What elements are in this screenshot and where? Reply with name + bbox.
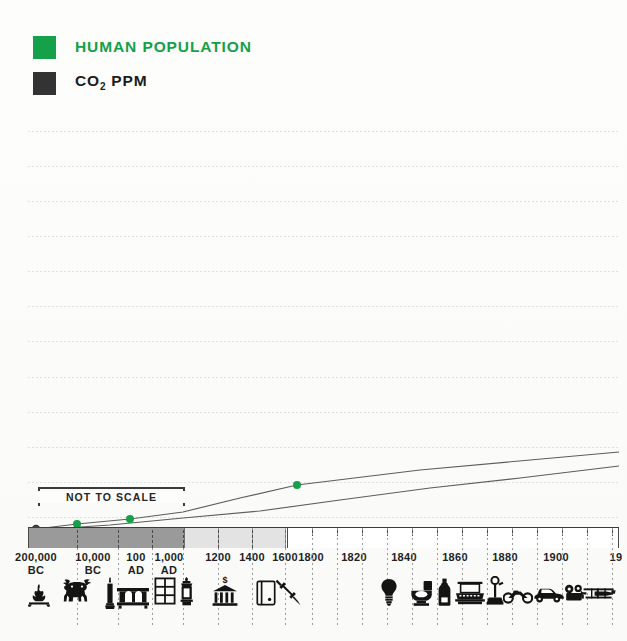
leader-line bbox=[312, 528, 313, 628]
automobile-icon bbox=[531, 583, 565, 603]
leader-line bbox=[118, 528, 119, 628]
bracket-line bbox=[38, 487, 185, 489]
timeline-band-medieval bbox=[184, 527, 286, 548]
not-to-scale-bracket: NOT TO SCALE bbox=[38, 487, 185, 508]
leader-line bbox=[562, 528, 563, 628]
legend-label-co2-main: CO bbox=[75, 72, 100, 89]
leader-line bbox=[337, 528, 338, 628]
lantern-icon bbox=[178, 577, 195, 606]
legend-item-human-population: HUMAN POPULATION bbox=[33, 33, 252, 61]
toilet-icon bbox=[410, 580, 434, 606]
leader-line bbox=[612, 528, 613, 628]
ledger-icon bbox=[256, 580, 276, 606]
legend-swatch-human-population bbox=[33, 36, 56, 59]
axis-baseline bbox=[28, 527, 619, 528]
ox-icon bbox=[60, 578, 94, 606]
legend-label-human-population: HUMAN POPULATION bbox=[75, 39, 252, 55]
gridline bbox=[28, 447, 619, 448]
biplane-icon bbox=[580, 584, 618, 604]
legend-label-co2-tail: PPM bbox=[106, 72, 148, 89]
axis-tick-label: 19 bbox=[584, 551, 627, 564]
leader-line bbox=[362, 528, 363, 628]
motorcycle-icon bbox=[503, 586, 533, 604]
gridline bbox=[28, 201, 619, 202]
legend-swatch-co2-ppm bbox=[33, 72, 56, 95]
not-to-scale-label: NOT TO SCALE bbox=[38, 491, 185, 503]
gridline bbox=[28, 166, 619, 167]
gridline bbox=[28, 131, 619, 132]
leader-line bbox=[587, 528, 588, 628]
leader-line bbox=[252, 528, 253, 628]
typewriter-icon bbox=[455, 581, 485, 605]
bank-icon: $ bbox=[212, 576, 238, 608]
legend-label-co2-ppm: CO2 PPM bbox=[75, 73, 148, 92]
axis-tick-label: 200,000BC bbox=[4, 551, 68, 576]
gridline bbox=[28, 482, 619, 483]
gridline bbox=[28, 412, 619, 413]
axis-tick-label: 1900 bbox=[524, 551, 588, 564]
syringe-icon bbox=[274, 578, 302, 606]
telephone-icon bbox=[486, 576, 504, 606]
gridline bbox=[28, 271, 619, 272]
gridline bbox=[28, 341, 619, 342]
furnace-icon bbox=[116, 585, 150, 609]
legend-item-co2-ppm: CO2 PPM bbox=[33, 69, 252, 97]
timeline-band-prehistoric bbox=[28, 527, 184, 548]
gridline bbox=[28, 236, 619, 237]
gridline bbox=[28, 306, 619, 307]
gridline bbox=[28, 517, 619, 518]
svg-text:$: $ bbox=[222, 576, 227, 585]
leader-line bbox=[537, 528, 538, 628]
legend: HUMAN POPULATION CO2 PPM bbox=[33, 33, 252, 105]
lightbulb-icon bbox=[380, 578, 398, 606]
window-grid-icon bbox=[154, 577, 176, 605]
candle-icon bbox=[104, 577, 116, 611]
campfire-icon bbox=[26, 582, 52, 608]
gridline bbox=[28, 377, 619, 378]
bottle-icon bbox=[437, 578, 452, 606]
leader-line bbox=[512, 528, 513, 628]
leader-line bbox=[412, 528, 413, 628]
chart-canvas: HUMAN POPULATION CO2 PPM NOT TO SCALE bbox=[0, 0, 627, 641]
leader-line bbox=[462, 528, 463, 628]
leader-line bbox=[152, 528, 153, 628]
